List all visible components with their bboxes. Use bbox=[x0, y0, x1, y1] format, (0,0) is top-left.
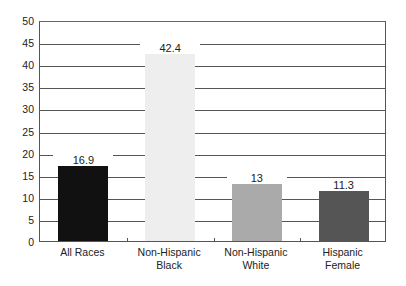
y-tick-label: 5 bbox=[0, 214, 34, 226]
y-tick-label: 20 bbox=[0, 148, 34, 160]
plot-area: 16.942.41311.3 bbox=[39, 21, 386, 242]
x-tick-mark bbox=[127, 238, 128, 242]
gridline bbox=[40, 44, 385, 45]
value-label: 16.9 bbox=[53, 154, 113, 166]
gridline bbox=[40, 66, 385, 67]
gridline bbox=[40, 110, 385, 111]
bar bbox=[319, 191, 369, 241]
x-tick-mark bbox=[300, 238, 301, 242]
category-label: All Races bbox=[37, 246, 127, 259]
category-label: HispanicFemale bbox=[298, 246, 388, 272]
value-label: 42.4 bbox=[140, 42, 200, 54]
category-label: Non-HispanicBlack bbox=[124, 246, 214, 272]
bar bbox=[58, 166, 108, 241]
value-label: 11.3 bbox=[314, 179, 374, 191]
y-tick-label: 25 bbox=[0, 126, 34, 138]
y-tick-label: 35 bbox=[0, 81, 34, 93]
gridline bbox=[40, 133, 385, 134]
y-tick-label: 30 bbox=[0, 103, 34, 115]
bar bbox=[145, 54, 195, 241]
bar bbox=[232, 184, 282, 241]
category-label-line: Black bbox=[124, 259, 214, 272]
category-label-line: All Races bbox=[37, 246, 127, 259]
value-label: 13 bbox=[227, 172, 287, 184]
y-tick-label: 15 bbox=[0, 170, 34, 182]
y-tick-label: 50 bbox=[0, 15, 34, 27]
x-tick-mark bbox=[214, 238, 215, 242]
category-label-line: White bbox=[211, 259, 301, 272]
category-label-line: Hispanic bbox=[298, 246, 388, 259]
y-tick-label: 40 bbox=[0, 59, 34, 71]
category-label: Non-HispanicWhite bbox=[211, 246, 301, 272]
gridline bbox=[40, 88, 385, 89]
y-tick-label: 10 bbox=[0, 192, 34, 204]
category-label-line: Non-Hispanic bbox=[124, 246, 214, 259]
y-tick-label: 0 bbox=[0, 236, 34, 248]
category-label-line: Non-Hispanic bbox=[211, 246, 301, 259]
y-tick-label: 45 bbox=[0, 37, 34, 49]
category-label-line: Female bbox=[298, 259, 388, 272]
